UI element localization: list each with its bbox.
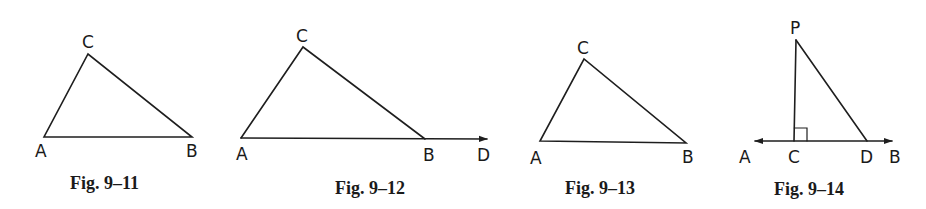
figure-9-11: C A B Fig. 9–11 <box>35 32 198 193</box>
label-c: C <box>577 38 589 58</box>
figure-caption: Fig. 9–13 <box>565 178 635 198</box>
segment-pc <box>794 40 796 141</box>
figure-caption: Fig. 9–12 <box>335 178 405 198</box>
label-c: C <box>296 26 308 46</box>
ray-ad <box>241 138 487 139</box>
label-a: A <box>739 147 751 167</box>
label-a: A <box>35 141 47 161</box>
figure-9-12: C A B D Fig. 9–12 <box>236 26 490 198</box>
label-a: A <box>236 144 248 164</box>
label-b: B <box>682 147 694 167</box>
figure-caption: Fig. 9–11 <box>70 173 139 193</box>
segment-pd <box>796 40 867 141</box>
label-d: D <box>477 145 490 165</box>
triangle-abc <box>241 47 425 139</box>
figure-9-13: C A B Fig. 9–13 <box>530 38 694 198</box>
right-angle-marker <box>794 128 807 141</box>
label-b: B <box>186 141 198 161</box>
label-b: B <box>423 145 435 165</box>
label-c: C <box>788 147 800 167</box>
figure-9-14: P A C D B Fig. 9–14 <box>739 18 901 199</box>
triangle-abc <box>44 54 192 137</box>
label-a: A <box>530 148 542 168</box>
label-d: D <box>860 147 873 167</box>
triangle-abc <box>540 59 686 143</box>
label-c: C <box>82 32 94 52</box>
label-b: B <box>889 147 901 167</box>
figure-caption: Fig. 9–14 <box>774 179 844 199</box>
label-p: P <box>790 18 800 38</box>
geometry-figures: C A B Fig. 9–11 C A B D Fig. 9–12 C A B … <box>0 0 926 209</box>
